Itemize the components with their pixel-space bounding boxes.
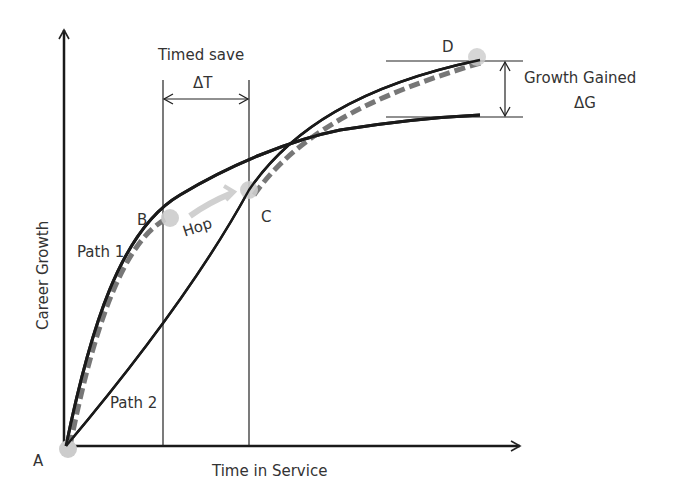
point-d-label: D bbox=[442, 38, 454, 56]
growth-gained-delta: ΔG bbox=[574, 94, 596, 112]
path-2-label: Path 2 bbox=[110, 394, 157, 412]
growth-gained-title: Growth Gained bbox=[524, 69, 636, 87]
hop-dashed-path-upper bbox=[254, 62, 484, 195]
timed-save-title: Timed save bbox=[157, 46, 244, 64]
y-axis-label: Career Growth bbox=[34, 221, 52, 330]
point-d-marker bbox=[468, 48, 486, 66]
point-b-label: B bbox=[137, 211, 147, 229]
hop-label: Hop bbox=[180, 214, 214, 240]
path-1-label: Path 1 bbox=[77, 243, 124, 261]
hop-arrow bbox=[190, 186, 234, 216]
timed-save-delta: ΔT bbox=[193, 74, 213, 92]
point-b-marker bbox=[161, 209, 179, 227]
point-c-label: C bbox=[261, 208, 271, 226]
point-a-label: A bbox=[33, 452, 44, 470]
x-axis-label: Time in Service bbox=[211, 462, 327, 480]
career-growth-diagram: A B C D Path 1 Path 2 Hop Timed save ΔT … bbox=[0, 0, 679, 497]
